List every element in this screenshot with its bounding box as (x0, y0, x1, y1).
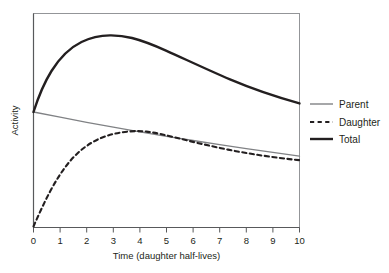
x-tick-label: 3 (111, 235, 116, 246)
chart-svg: 0 1 2 3 4 5 6 7 8 9 10 Time (daughter ha… (0, 0, 389, 273)
x-tick-label: 4 (137, 235, 142, 246)
x-tick-label: 10 (294, 235, 305, 246)
x-tick-label: 2 (84, 235, 89, 246)
x-tick-label: 0 (31, 235, 36, 246)
x-tick-label: 5 (164, 235, 169, 246)
chart-legend: Parent Daughter Total (310, 99, 381, 145)
y-axis-title: Activity (9, 105, 20, 135)
x-tick-label: 6 (190, 235, 195, 246)
legend-label-total: Total (339, 134, 360, 145)
legend-item-total: Total (310, 134, 360, 145)
legend-label-parent: Parent (339, 99, 369, 110)
x-tick-label: 1 (57, 235, 62, 246)
legend-item-daughter: Daughter (310, 117, 381, 128)
activity-vs-time-chart: 0 1 2 3 4 5 6 7 8 9 10 Time (daughter ha… (0, 0, 389, 273)
legend-label-daughter: Daughter (339, 117, 381, 128)
x-tick-label: 7 (217, 235, 222, 246)
x-axis-title: Time (daughter half-lives) (113, 250, 220, 261)
x-axis-ticks (34, 228, 300, 233)
legend-item-parent: Parent (310, 99, 369, 110)
x-axis-tick-labels: 0 1 2 3 4 5 6 7 8 9 10 (31, 235, 305, 246)
x-tick-label: 8 (244, 235, 249, 246)
x-tick-label: 9 (270, 235, 275, 246)
